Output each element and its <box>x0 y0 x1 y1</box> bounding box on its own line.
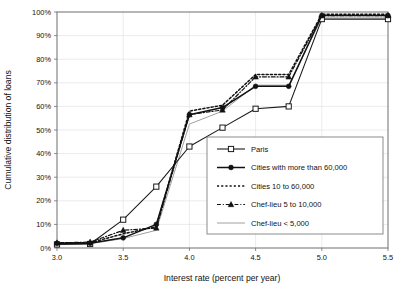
legend-label: Cities 10 to 60,000 <box>251 182 314 191</box>
x-tick-label: 3.5 <box>118 253 128 262</box>
data-point-marker-circle <box>229 165 234 170</box>
legend-label: Paris <box>251 145 269 154</box>
legend-label: Cities with more than 60,000 <box>251 163 347 172</box>
x-axis-title: Interest rate (percent per year) <box>164 273 281 283</box>
data-point-marker-square <box>228 146 233 151</box>
y-tick-label: 90% <box>36 31 51 40</box>
data-point-marker-square <box>253 106 258 111</box>
y-tick-label: 30% <box>36 173 51 182</box>
data-point-marker-circle <box>253 84 258 89</box>
y-tick-label: 0% <box>40 244 51 253</box>
data-point-marker-circle <box>88 241 93 246</box>
x-tick-label: 4.0 <box>184 253 194 262</box>
data-point-marker-circle <box>386 13 391 18</box>
chart-legend: ParisCities with more than 60,000Cities … <box>207 137 383 234</box>
data-point-marker-square <box>220 125 225 130</box>
chart-container: 0%10%20%30%40%50%60%70%80%90%100% 3.03.5… <box>0 0 401 290</box>
y-tick-label: 10% <box>36 220 51 229</box>
y-axis-title: Cumulative distribution of loans <box>3 70 13 189</box>
x-tick-label: 4.5 <box>250 253 260 262</box>
y-tick-label: 100% <box>32 8 51 17</box>
y-axis-ticks: 0%10%20%30%40%50%60%70%80%90%100% <box>32 8 57 253</box>
x-tick-label: 3.0 <box>52 253 62 262</box>
y-tick-label: 40% <box>36 149 51 158</box>
legend-label: Chef-lieu 5 to 10,000 <box>251 200 322 209</box>
x-tick-label: 5.0 <box>317 253 327 262</box>
y-tick-label: 80% <box>36 55 51 64</box>
y-tick-label: 70% <box>36 78 51 87</box>
data-point-marker-square <box>121 217 126 222</box>
y-tick-label: 20% <box>36 196 51 205</box>
data-point-marker-circle <box>154 222 159 227</box>
data-point-marker-circle <box>187 112 192 117</box>
y-tick-label: 60% <box>36 102 51 111</box>
data-point-marker-square <box>154 184 159 189</box>
legend-label: Chef-lieu < 5,000 <box>251 219 309 228</box>
cumulative-distribution-line-chart: 0%10%20%30%40%50%60%70%80%90%100% 3.03.5… <box>0 0 401 290</box>
data-point-marker-square <box>187 144 192 149</box>
data-point-marker-circle <box>319 13 324 18</box>
data-point-marker-square <box>286 104 291 109</box>
y-tick-label: 50% <box>36 126 51 135</box>
data-point-marker-circle <box>220 105 225 110</box>
x-axis-ticks: 3.03.54.04.55.05.5 <box>52 248 393 262</box>
data-point-marker-circle <box>55 241 60 246</box>
data-point-marker-circle <box>121 235 126 240</box>
x-tick-label: 5.5 <box>383 253 393 262</box>
data-point-marker-circle <box>286 84 291 89</box>
